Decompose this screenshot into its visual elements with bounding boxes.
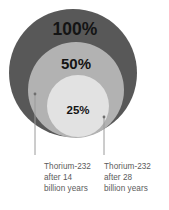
caption-right-line-3: billion years <box>104 183 151 194</box>
caption-right: Thorium-232 after 28 billion years <box>104 161 151 195</box>
caption-right-line-1: Thorium-232 <box>104 161 151 172</box>
outer-circle-label: 100% <box>53 19 98 39</box>
thorium-decay-figure: 100% 50% 25% Thorium-232 after 14 billio… <box>0 0 169 210</box>
caption-left-line-2: after 14 <box>44 172 91 183</box>
caption-right-line-2: after 28 <box>104 172 151 183</box>
caption-left-line-3: billion years <box>44 183 91 194</box>
caption-left-line-1: Thorium-232 <box>44 161 91 172</box>
leader-dot-left <box>34 93 37 96</box>
caption-left: Thorium-232 after 14 billion years <box>44 161 91 195</box>
inner-circle-label: 25% <box>66 104 89 116</box>
middle-circle-label: 50% <box>61 55 91 72</box>
leader-dot-right <box>103 116 106 119</box>
